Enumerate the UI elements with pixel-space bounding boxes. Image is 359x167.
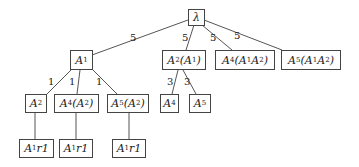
tree-node-a4a1a2: A4(A1A2) bbox=[215, 50, 275, 70]
edge-weight-label: 5 bbox=[234, 31, 240, 41]
tree-node-r1a: A1r1 bbox=[19, 139, 54, 158]
tree-node-a5a2: A5(A2) bbox=[107, 94, 149, 113]
tree-node-a2a1: A2(A1) bbox=[162, 50, 206, 70]
tree-node-a4a2: A4(A2) bbox=[54, 94, 99, 113]
tree-node-r1c: A1r1 bbox=[112, 139, 146, 158]
tree-node-r1b: A1r1 bbox=[59, 139, 93, 158]
tree-node-a1: A1 bbox=[70, 50, 93, 70]
edge-weight-label: 3 bbox=[184, 77, 190, 87]
edge-weight-label: 5 bbox=[182, 33, 188, 43]
edge-weight-label: 5 bbox=[130, 33, 136, 43]
tree-node-a5: A5 bbox=[189, 94, 211, 113]
tree-node-a4: A4 bbox=[160, 94, 179, 113]
edge-weight-label: 3 bbox=[167, 77, 173, 87]
tree-node-a5a1a2: A5(A1A2) bbox=[281, 50, 341, 70]
edge-weight-label: 1 bbox=[69, 77, 75, 87]
edge-weight-label: 5 bbox=[210, 33, 216, 43]
edge-weight-label: 1 bbox=[48, 77, 54, 87]
edge-weight-label: 1 bbox=[96, 77, 102, 87]
edge-a1-a4a2 bbox=[77, 70, 80, 94]
tree-node-a2: A2 bbox=[25, 94, 47, 113]
tree-node-root: λ bbox=[188, 9, 205, 26]
